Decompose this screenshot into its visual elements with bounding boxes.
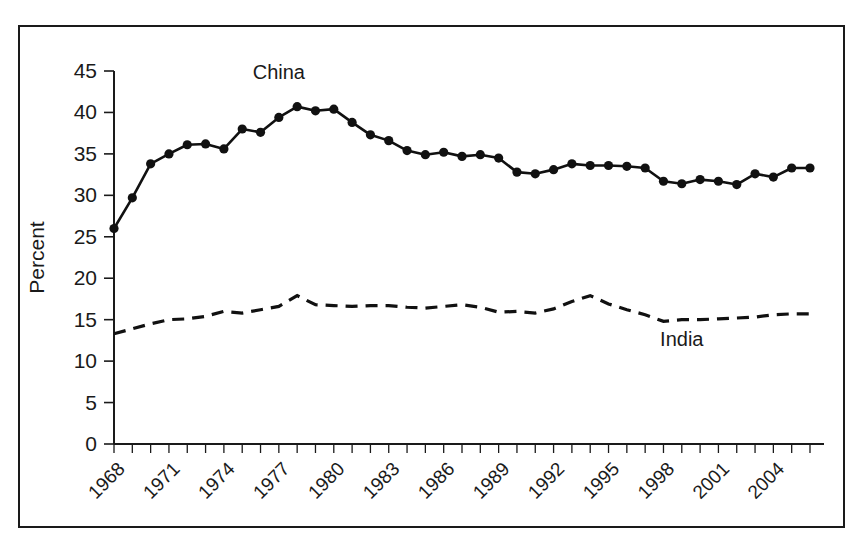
x-axis-tick-label: 1992 xyxy=(524,458,569,503)
data-point-china xyxy=(457,152,466,161)
data-point-china xyxy=(512,168,521,177)
data-point-china xyxy=(769,172,778,181)
data-point-china xyxy=(476,150,485,159)
y-axis-tick-label: 5 xyxy=(85,391,97,414)
x-axis-tick-label: 1971 xyxy=(139,458,184,503)
data-point-china xyxy=(641,163,650,172)
y-axis-tick-label: 45 xyxy=(74,59,97,82)
data-point-china xyxy=(677,179,686,188)
x-axis-tick-label: 1980 xyxy=(304,458,349,503)
y-axis-tick-label: 25 xyxy=(74,225,97,248)
data-point-china xyxy=(146,159,155,168)
x-axis-tick-label: 2001 xyxy=(689,458,734,503)
data-point-china xyxy=(128,193,137,202)
y-axis-title: Percent xyxy=(25,221,48,294)
x-axis-tick-label: 1974 xyxy=(194,458,239,503)
y-axis-tick-label: 15 xyxy=(74,308,97,331)
x-axis-tick-label: 1977 xyxy=(249,458,294,503)
x-axis-tick-label: 1968 xyxy=(84,458,129,503)
data-point-china xyxy=(732,180,741,189)
y-axis-tick-label: 20 xyxy=(74,266,97,289)
data-point-china xyxy=(384,136,393,145)
y-axis-tick-label: 30 xyxy=(74,183,97,206)
x-axis-tick-label: 1983 xyxy=(359,458,404,503)
data-point-china xyxy=(311,106,320,115)
data-point-china xyxy=(366,130,375,139)
data-point-china xyxy=(531,169,540,178)
data-point-china xyxy=(750,169,759,178)
y-axis-tick-label: 40 xyxy=(74,100,97,123)
series-label-china: China xyxy=(253,61,306,83)
x-axis-tick-label: 2004 xyxy=(743,458,788,503)
data-point-china xyxy=(109,224,118,233)
series-line-india xyxy=(114,296,810,334)
data-point-china xyxy=(567,159,576,168)
data-point-china xyxy=(238,124,247,133)
figure-frame: 051015202530354045Percent196819711974197… xyxy=(18,25,845,528)
data-point-china xyxy=(494,153,503,162)
data-point-china xyxy=(622,162,631,171)
data-point-china xyxy=(714,177,723,186)
data-point-china xyxy=(201,139,210,148)
data-point-china xyxy=(164,149,173,158)
data-point-china xyxy=(256,128,265,137)
data-point-china xyxy=(604,161,613,170)
series-label-india: India xyxy=(660,328,704,350)
data-point-china xyxy=(402,146,411,155)
x-axis-tick-label: 1986 xyxy=(414,458,459,503)
data-point-china xyxy=(348,118,357,127)
data-point-china xyxy=(439,148,448,157)
data-point-china xyxy=(549,165,558,174)
line-chart: 051015202530354045Percent196819711974197… xyxy=(20,27,843,526)
data-point-china xyxy=(329,105,338,114)
data-point-china xyxy=(421,150,430,159)
x-axis-tick-label: 1995 xyxy=(579,458,624,503)
x-axis-tick-label: 1989 xyxy=(469,458,514,503)
data-point-china xyxy=(787,163,796,172)
x-axis-tick-label: 1998 xyxy=(634,458,679,503)
data-point-china xyxy=(659,177,668,186)
y-axis-tick-label: 10 xyxy=(74,349,97,372)
data-point-china xyxy=(586,161,595,170)
series-line-china xyxy=(114,107,810,229)
data-point-china xyxy=(696,175,705,184)
data-point-china xyxy=(183,140,192,149)
data-point-china xyxy=(293,102,302,111)
data-point-china xyxy=(805,163,814,172)
data-point-china xyxy=(274,113,283,122)
y-axis-tick-label: 35 xyxy=(74,142,97,165)
y-axis-tick-label: 0 xyxy=(85,432,97,455)
data-point-china xyxy=(219,144,228,153)
